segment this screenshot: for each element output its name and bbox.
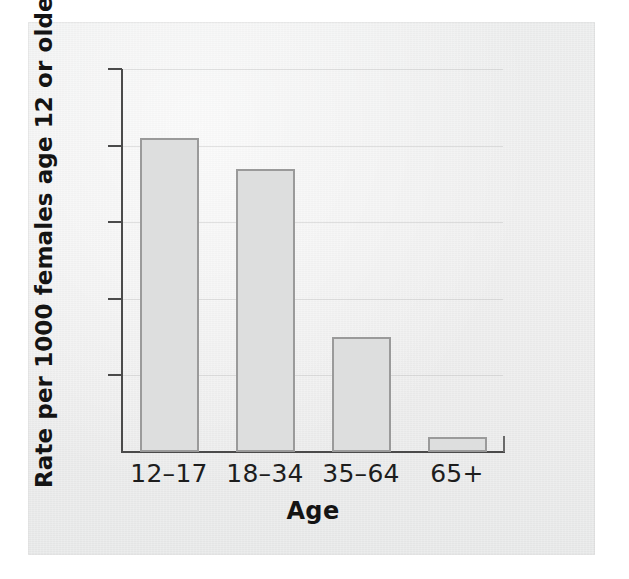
y-tick-mark-3	[108, 221, 122, 223]
y-tick-mark-2	[108, 298, 122, 300]
bar-3	[428, 437, 487, 452]
x-tick-label-0: 12–17	[121, 461, 217, 486]
y-tick-mark-4	[108, 145, 122, 147]
gridline-5	[123, 69, 503, 70]
y-axis-spine	[121, 69, 123, 453]
bar-1	[236, 169, 295, 452]
bar-2	[332, 337, 391, 452]
y-tick-mark-1	[108, 374, 122, 376]
figure-root: 5 4 3 2 1 0 12–17 18–34 35–64 65+ Age Ra…	[0, 0, 629, 579]
x-axis-title: Age	[121, 497, 505, 525]
y-tick-mark-5	[108, 68, 122, 70]
x-tick-label-3: 65+	[409, 461, 505, 486]
y-axis-title: Rate per 1000 females age 12 or older	[31, 28, 57, 488]
x-tick-label-1: 18–34	[217, 461, 313, 486]
x-axis-end-tick	[503, 436, 505, 452]
x-tick-label-2: 35–64	[313, 461, 409, 486]
bar-0	[140, 138, 199, 452]
